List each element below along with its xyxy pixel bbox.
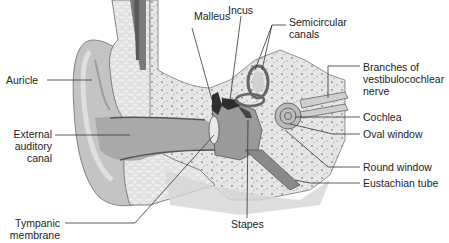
label-line: canal	[2, 152, 52, 164]
label-eustachian-tube: Eustachian tube	[363, 177, 438, 189]
label-cochlea: Cochlea	[363, 111, 402, 123]
label-branches-nerve: Branches of vestibulocochlear nerve	[363, 61, 444, 97]
label-line: External	[2, 128, 52, 140]
label-line: nerve	[363, 85, 444, 97]
label-incus: Incus	[228, 4, 253, 16]
label-tympanic-membrane: Tympanic membrane	[2, 217, 60, 241]
label-line: Tympanic	[2, 217, 60, 229]
label-malleus: Malleus	[194, 10, 230, 22]
label-line: auditory	[2, 140, 52, 152]
tympanic-membrane-shape	[209, 116, 219, 144]
label-oval-window: Oval window	[363, 128, 423, 140]
label-line: Branches of	[363, 61, 444, 73]
label-external-auditory-canal: External auditory canal	[2, 128, 52, 164]
label-stapes: Stapes	[231, 218, 264, 230]
label-semicircular-canals: Semicircular canals	[289, 16, 347, 40]
label-line: membrane	[2, 229, 60, 241]
label-auricle: Auricle	[6, 74, 38, 86]
label-line: Semicircular	[289, 16, 347, 28]
cochlea-shape	[275, 103, 301, 129]
label-line: vestibulocochlear	[363, 73, 444, 85]
label-line: canals	[289, 28, 347, 40]
label-round-window: Round window	[363, 161, 432, 173]
